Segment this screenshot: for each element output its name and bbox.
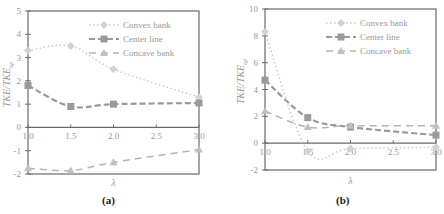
x-axis-title: λ <box>110 177 116 188</box>
series-center-line <box>262 77 440 139</box>
caption-b: (b) <box>336 194 349 206</box>
x-tick-label: 1.0 <box>22 131 34 141</box>
y-tick-label: -2 <box>251 165 259 175</box>
x-tick-label: 3.0 <box>193 131 205 141</box>
legend-item: Convex bank <box>89 20 171 30</box>
y-tick-label: 6 <box>254 58 259 68</box>
square-marker <box>67 103 74 110</box>
diamond-marker <box>110 65 118 73</box>
y-tick-label: 1 <box>17 99 22 109</box>
legend-item: Convex bank <box>326 18 408 28</box>
triangle-marker <box>195 146 203 153</box>
square-marker <box>262 77 269 84</box>
diamond-marker <box>261 28 269 36</box>
chart-panel-b: 1086420-21.01.52.02.53.0λTKE/TKEupConvex… <box>222 0 444 214</box>
square-marker <box>101 36 108 43</box>
diamond-marker <box>100 21 108 29</box>
y-tick-label: 2 <box>17 76 22 86</box>
y-axis-title: TKE/TKEup <box>1 62 14 107</box>
square-marker <box>304 114 311 121</box>
y-tick-label: 10 <box>249 4 259 14</box>
legend-item: Center line <box>326 32 400 42</box>
y-tick-label: -2 <box>14 169 22 179</box>
legend-item: Center line <box>89 34 163 44</box>
x-tick-label: 2.0 <box>108 131 120 141</box>
y-tick-label: 2 <box>254 111 259 121</box>
square-marker <box>110 101 117 108</box>
y-tick-label: 0 <box>17 122 22 132</box>
legend-label: Center line <box>360 32 400 42</box>
caption-a: (a) <box>102 194 115 206</box>
x-tick-label: 1.0 <box>259 147 271 157</box>
plot-frame <box>28 11 199 174</box>
y-tick-label: 0 <box>254 138 259 148</box>
legend-label: Convex bank <box>360 18 408 28</box>
y-tick-label: 3 <box>17 53 22 63</box>
legend-label: Concave bank <box>360 46 412 56</box>
diamond-marker <box>67 42 75 50</box>
y-tick-label: 8 <box>254 31 259 41</box>
triangle-marker <box>261 107 269 114</box>
square-marker <box>433 132 440 139</box>
series-convex-bank <box>261 28 440 160</box>
series-concave-bank <box>24 146 203 174</box>
series-convex-bank <box>24 42 203 101</box>
series-concave-bank <box>261 107 440 130</box>
line-chart-b: 1086420-21.01.52.02.53.0λTKE/TKEupConvex… <box>222 0 444 214</box>
square-marker <box>338 34 345 41</box>
chart-panel-a: 543210-1-21.01.52.02.53.0λTKE/TKEupConve… <box>0 0 222 214</box>
y-tick-label: 4 <box>17 29 22 39</box>
legend-label: Center line <box>123 34 163 44</box>
y-tick-label: 5 <box>17 6 22 16</box>
legend-label: Convex bank <box>123 20 171 30</box>
legend-item: Concave bank <box>326 46 412 56</box>
y-tick-label: 4 <box>254 85 259 95</box>
y-axis-title: TKE/TKEup <box>235 59 248 104</box>
square-marker <box>196 99 203 106</box>
x-tick-label: 2.5 <box>151 131 163 141</box>
series-center-line <box>25 82 203 110</box>
square-marker <box>25 82 32 89</box>
legend-item: Concave bank <box>89 48 175 58</box>
y-tick-label: -1 <box>14 146 22 156</box>
legend-label: Concave bank <box>123 48 175 58</box>
x-tick-label: 1.5 <box>65 131 77 141</box>
line-chart-a: 543210-1-21.01.52.02.53.0λTKE/TKEupConve… <box>0 0 222 214</box>
diamond-marker <box>337 19 345 27</box>
x-axis-title: λ <box>347 175 353 186</box>
diamond-marker <box>24 47 32 55</box>
x-tick-label: 2.5 <box>388 147 400 157</box>
